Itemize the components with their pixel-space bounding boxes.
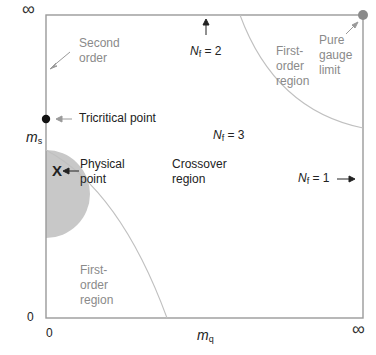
- x-axis-title: mq: [197, 328, 214, 347]
- crossover-region-label: Crossoverregion: [172, 157, 227, 187]
- y-axis-zero: 0: [27, 310, 34, 325]
- nf3-label: Nf = 3: [213, 128, 245, 146]
- nf1-arrow: [337, 176, 355, 182]
- y-axis-title: ms: [26, 130, 42, 149]
- second-order-label: Secondorder: [79, 36, 120, 66]
- pure-gauge-dot: [358, 10, 368, 20]
- tricritical-point-label: Tricritical point: [79, 111, 156, 126]
- upper-first-order-label: First-orderregion: [276, 44, 309, 89]
- physical-point-marker: X: [52, 163, 62, 178]
- nf1-label: Nf = 1: [298, 171, 330, 189]
- tricritical-arrow: [56, 116, 72, 122]
- tricritical-point-dot: [42, 115, 50, 123]
- lower-first-order-label: First-orderregion: [80, 263, 113, 308]
- nf2-arrow: [203, 19, 209, 35]
- pure-gauge-label: Puregaugelimit: [319, 33, 352, 78]
- physical-point-label: Physicalpoint: [80, 157, 125, 187]
- nf2-label: Nf = 2: [190, 44, 222, 62]
- second-order-arrow: [50, 52, 70, 69]
- x-axis-infinity: ∞: [352, 322, 365, 337]
- y-axis-infinity: ∞: [22, 2, 35, 17]
- x-axis-zero: 0: [46, 326, 53, 341]
